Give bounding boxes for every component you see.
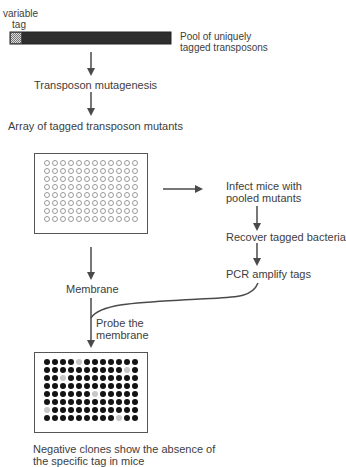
well-empty	[68, 184, 74, 190]
pcr-label: PCR amplify tags	[226, 268, 311, 280]
well-empty	[92, 184, 98, 190]
well-empty	[100, 216, 106, 222]
well-positive	[52, 367, 58, 373]
well-positive	[100, 407, 106, 413]
well-empty	[76, 200, 82, 206]
well-positive	[108, 415, 114, 421]
well-empty	[100, 208, 106, 214]
well-positive	[52, 359, 58, 365]
well-empty	[132, 208, 138, 214]
well-positive	[108, 375, 114, 381]
array-label: Array of tagged transposon mutants	[8, 120, 183, 132]
well-positive	[60, 367, 66, 373]
well-empty	[44, 160, 50, 166]
well-positive	[44, 399, 50, 405]
well-empty	[84, 184, 90, 190]
well-empty	[100, 168, 106, 174]
well-positive	[100, 359, 106, 365]
well-positive	[84, 367, 90, 373]
well-empty	[68, 192, 74, 198]
well-empty	[84, 160, 90, 166]
well-empty	[44, 184, 50, 190]
well-positive	[76, 415, 82, 421]
well-positive	[108, 367, 114, 373]
recover-label: Recover tagged bacteria	[226, 231, 346, 243]
well-positive	[132, 391, 138, 397]
well-empty	[132, 192, 138, 198]
well-empty	[68, 200, 74, 206]
well-empty	[108, 192, 114, 198]
well-empty	[52, 160, 58, 166]
well-positive	[108, 383, 114, 389]
well-positive	[68, 415, 74, 421]
well-positive	[116, 359, 122, 365]
well-positive	[68, 375, 74, 381]
well-positive	[76, 399, 82, 405]
well-empty	[52, 192, 58, 198]
well-empty	[52, 184, 58, 190]
well-empty	[116, 192, 122, 198]
well-negative	[44, 407, 50, 413]
well-empty	[52, 176, 58, 182]
well-positive	[52, 391, 58, 397]
well-empty	[108, 184, 114, 190]
master-plate-wells	[43, 159, 139, 223]
well-positive	[132, 383, 138, 389]
well-empty	[60, 192, 66, 198]
well-positive	[44, 367, 50, 373]
well-empty	[68, 208, 74, 214]
conclusion-line1: Negative clones show the absence of	[33, 443, 215, 455]
well-positive	[84, 391, 90, 397]
well-positive	[60, 391, 66, 397]
well-empty	[76, 160, 82, 166]
well-empty	[92, 160, 98, 166]
well-empty	[116, 184, 122, 190]
well-empty	[68, 168, 74, 174]
probe-line1: Probe the	[96, 317, 149, 329]
mutagenesis-label: Transposon mutagenesis	[34, 79, 157, 91]
well-empty	[60, 184, 66, 190]
well-empty	[60, 208, 66, 214]
well-positive	[132, 399, 138, 405]
infect-line1: Infect mice with	[226, 180, 302, 192]
well-empty	[100, 176, 106, 182]
well-positive	[116, 407, 122, 413]
well-empty	[44, 208, 50, 214]
well-positive	[108, 399, 114, 405]
master-plate	[34, 153, 148, 234]
well-negative	[76, 359, 82, 365]
infect-label: Infect mice with pooled mutants	[226, 180, 302, 204]
well-positive	[44, 383, 50, 389]
well-empty	[132, 216, 138, 222]
well-empty	[100, 184, 106, 190]
well-empty	[116, 176, 122, 182]
well-positive	[44, 359, 50, 365]
pool-line2: tagged transposons	[180, 42, 268, 53]
conclusion-line2: the specific tag in mice	[33, 455, 215, 467]
well-empty	[68, 216, 74, 222]
well-positive	[100, 367, 106, 373]
well-empty	[132, 160, 138, 166]
well-positive	[116, 391, 122, 397]
well-positive	[100, 375, 106, 381]
well-empty	[108, 200, 114, 206]
probe-label: Probe the membrane	[96, 317, 149, 341]
well-empty	[92, 192, 98, 198]
well-positive	[132, 375, 138, 381]
well-positive	[84, 399, 90, 405]
well-empty	[44, 168, 50, 174]
well-empty	[76, 216, 82, 222]
probed-membrane-wells	[43, 358, 139, 422]
well-empty	[84, 200, 90, 206]
well-positive	[60, 383, 66, 389]
well-positive	[68, 391, 74, 397]
well-positive	[124, 375, 130, 381]
well-empty	[76, 176, 82, 182]
well-empty	[124, 184, 130, 190]
well-empty	[92, 200, 98, 206]
well-positive	[108, 407, 114, 413]
well-positive	[108, 391, 114, 397]
well-negative	[92, 391, 98, 397]
well-positive	[60, 407, 66, 413]
well-positive	[116, 375, 122, 381]
